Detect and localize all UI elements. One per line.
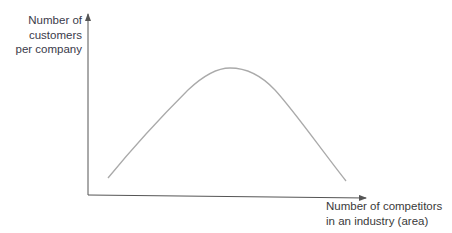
y-axis-label-line-3: per company (16, 42, 82, 57)
y-axis-label-line-1: Number of (16, 13, 82, 28)
x-axis (88, 195, 366, 198)
x-axis-label-line-1: Number of competitors (326, 199, 442, 214)
y-axis-label-line-2: customers (16, 28, 82, 43)
x-axis-label: Number of competitors in an industry (ar… (326, 199, 442, 229)
inverted-u-curve (108, 68, 346, 181)
y-axis-label: Number of customers per company (16, 13, 82, 57)
x-axis-label-line-2: in an industry (area) (326, 214, 442, 229)
